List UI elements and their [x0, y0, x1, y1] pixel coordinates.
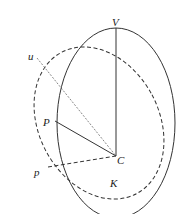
label-k: K [109, 177, 118, 189]
line-p-upper-c [55, 121, 116, 156]
dashed-ellipse [8, 24, 189, 214]
label-p-upper: P [42, 116, 50, 128]
label-c: C [117, 154, 125, 166]
label-u: u [28, 50, 34, 62]
label-p-lower: p [33, 166, 40, 178]
diagram-canvas: V u P p C K [0, 0, 189, 214]
line-u-c [37, 58, 116, 156]
line-p-lower-c [48, 156, 116, 167]
label-v: V [112, 16, 120, 28]
